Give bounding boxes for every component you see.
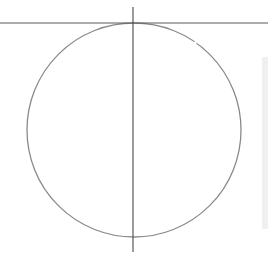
arc-gap-mark	[193, 41, 196, 44]
circle	[27, 23, 241, 237]
side-panel	[262, 57, 268, 229]
arc-gap-mark	[75, 40, 78, 43]
diagram-canvas	[0, 0, 268, 264]
